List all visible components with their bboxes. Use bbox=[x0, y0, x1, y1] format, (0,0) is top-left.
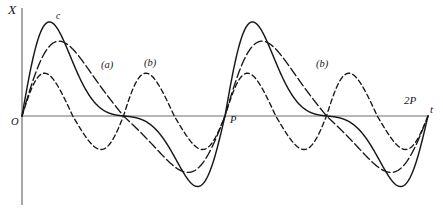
x-axis-label: t bbox=[430, 104, 433, 115]
annotation-peak-c: c bbox=[56, 12, 60, 22]
annotation-curve-a: (a) bbox=[101, 60, 113, 71]
curve-a-dashdot bbox=[22, 41, 428, 172]
annotation-curve-b-first: (b) bbox=[144, 58, 156, 69]
annotation-curve-b-second: (b) bbox=[316, 59, 328, 70]
x-tick-label-p: P bbox=[230, 115, 236, 126]
waveform-plot bbox=[0, 0, 443, 210]
origin-label: O bbox=[11, 117, 19, 128]
y-axis-label: X bbox=[8, 3, 16, 17]
curve-c-solid bbox=[22, 22, 428, 187]
x-tick-label-2p: 2P bbox=[404, 95, 416, 106]
figure-canvas: X t O P 2P c (a) (b) (b) bbox=[0, 0, 443, 210]
